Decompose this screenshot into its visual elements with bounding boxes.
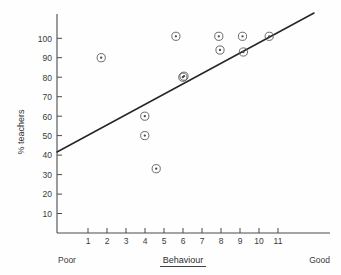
data-point — [141, 112, 149, 120]
y-tick-label-40: 40 — [43, 150, 53, 160]
x-tick-group: 1 2 3 4 5 6 7 8 9 10 11 — [86, 228, 283, 246]
data-point — [141, 132, 149, 140]
y-tick-label-30: 30 — [43, 170, 53, 180]
chart-page: 100 90 80 70 60 50 40 30 20 10 1 — [0, 0, 341, 275]
data-point-group — [97, 32, 273, 173]
x-axis-title: Behaviour — [163, 255, 204, 265]
x-tick-label-5: 5 — [162, 236, 167, 246]
x-axis-high-label: Good — [309, 255, 330, 265]
x-tick-label-8: 8 — [219, 236, 224, 246]
y-tick-label-70: 70 — [43, 92, 53, 102]
y-tick-label-90: 90 — [43, 53, 53, 63]
x-tick-label-2: 2 — [105, 236, 110, 246]
y-tick-label-10: 10 — [43, 209, 53, 219]
data-point — [172, 32, 180, 40]
x-tick-label-4: 4 — [143, 236, 148, 246]
scatter-plot: 100 90 80 70 60 50 40 30 20 10 1 — [0, 0, 341, 275]
data-point — [97, 54, 105, 62]
y-tick-label-80: 80 — [43, 73, 53, 83]
y-tick-label-100: 100 — [38, 34, 52, 44]
x-tick-label-10: 10 — [254, 236, 264, 246]
data-point — [152, 165, 160, 173]
data-point — [238, 32, 246, 40]
data-point — [215, 32, 223, 40]
x-tick-label-3: 3 — [124, 236, 129, 246]
x-tick-label-9: 9 — [238, 236, 243, 246]
x-tick-label-11: 11 — [274, 236, 283, 246]
x-tick-label-6: 6 — [181, 236, 186, 246]
y-tick-label-60: 60 — [43, 112, 53, 122]
y-tick-label-20: 20 — [43, 189, 53, 199]
x-tick-label-1: 1 — [86, 236, 91, 246]
data-point — [216, 46, 224, 54]
regression-line — [57, 13, 314, 152]
x-tick-label-7: 7 — [200, 236, 205, 246]
x-axis-low-label: Poor — [58, 255, 76, 265]
y-tick-label-50: 50 — [43, 131, 53, 141]
y-tick-group: 100 90 80 70 60 50 40 30 20 10 — [38, 34, 62, 219]
y-axis-title: % teachers — [16, 109, 26, 155]
